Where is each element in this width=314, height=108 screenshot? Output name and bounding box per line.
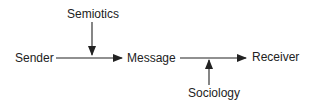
sociology-label: Sociology: [188, 86, 240, 100]
semiotics-label: Semiotics: [67, 7, 119, 21]
message-label: Message: [127, 51, 176, 65]
sender-label: Sender: [15, 51, 54, 65]
receiver-label: Receiver: [252, 50, 299, 64]
